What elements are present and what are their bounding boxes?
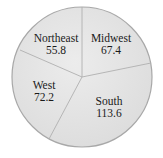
slice-value-west: 72.2 [34, 91, 54, 103]
slice-label-northeast: Northeast [34, 32, 80, 44]
pie-chart: Northeast 55.8 Midwest 67.4 West 72.2 So… [0, 0, 163, 158]
slice-value-midwest: 67.4 [101, 44, 121, 56]
slice-label-south: South [96, 95, 123, 107]
slice-value-northeast: 55.8 [46, 44, 66, 56]
slice-label-midwest: Midwest [91, 32, 132, 44]
slice-value-south: 113.6 [96, 107, 122, 119]
slice-west: West 72.2 [33, 79, 57, 103]
slice-south: South 113.6 [96, 95, 123, 119]
slice-label-west: West [33, 79, 57, 91]
